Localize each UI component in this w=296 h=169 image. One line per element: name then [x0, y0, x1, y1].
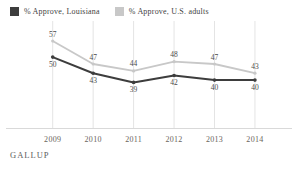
x-tick-label: 2009 [44, 135, 61, 144]
legend-swatch-louisiana [10, 7, 19, 16]
series-line [53, 57, 255, 82]
data-label: 39 [130, 85, 138, 94]
data-label: 40 [251, 83, 259, 92]
data-point [172, 74, 176, 78]
data-point [253, 78, 257, 82]
legend-label-louisiana: % Approve, Louisiana [24, 7, 100, 16]
data-point [172, 60, 175, 63]
legend-item-louisiana: % Approve, Louisiana [10, 7, 100, 16]
legend: % Approve, Louisiana % Approve, U.S. adu… [10, 7, 209, 16]
x-tick-label: 2011 [125, 135, 142, 144]
line-chart: 5043394240405747444847432009201020112012… [0, 0, 296, 169]
x-tick-label: 2013 [206, 135, 223, 144]
data-point [132, 81, 136, 85]
data-label: 50 [49, 60, 57, 69]
gallup-approval-chart: 5043394240405747444847432009201020112012… [0, 0, 296, 169]
legend-item-us-adults: % Approve, U.S. adults [115, 7, 209, 16]
data-point [213, 62, 216, 65]
data-point [253, 72, 256, 75]
x-tick-label: 2014 [246, 135, 263, 144]
data-point [92, 62, 95, 65]
x-tick-label: 2012 [165, 135, 182, 144]
data-label: 43 [251, 62, 259, 71]
legend-label-us-adults: % Approve, U.S. adults [129, 7, 209, 16]
data-label: 44 [130, 59, 138, 68]
data-point [51, 39, 54, 42]
data-point [51, 55, 55, 59]
data-label: 47 [89, 53, 97, 62]
data-label: 57 [49, 30, 57, 39]
data-point [213, 78, 217, 82]
gridlines [53, 21, 255, 128]
data-label: 47 [211, 53, 219, 62]
series-louisiana [51, 55, 257, 84]
data-point [132, 69, 135, 72]
x-tick-label: 2010 [85, 135, 102, 144]
source-label: GALLUP [10, 150, 50, 160]
data-point [91, 71, 95, 75]
legend-swatch-us-adults [115, 7, 124, 16]
data-label: 42 [170, 78, 178, 87]
data-label: 43 [89, 76, 97, 85]
data-label: 48 [170, 50, 178, 59]
data-label: 40 [211, 83, 219, 92]
